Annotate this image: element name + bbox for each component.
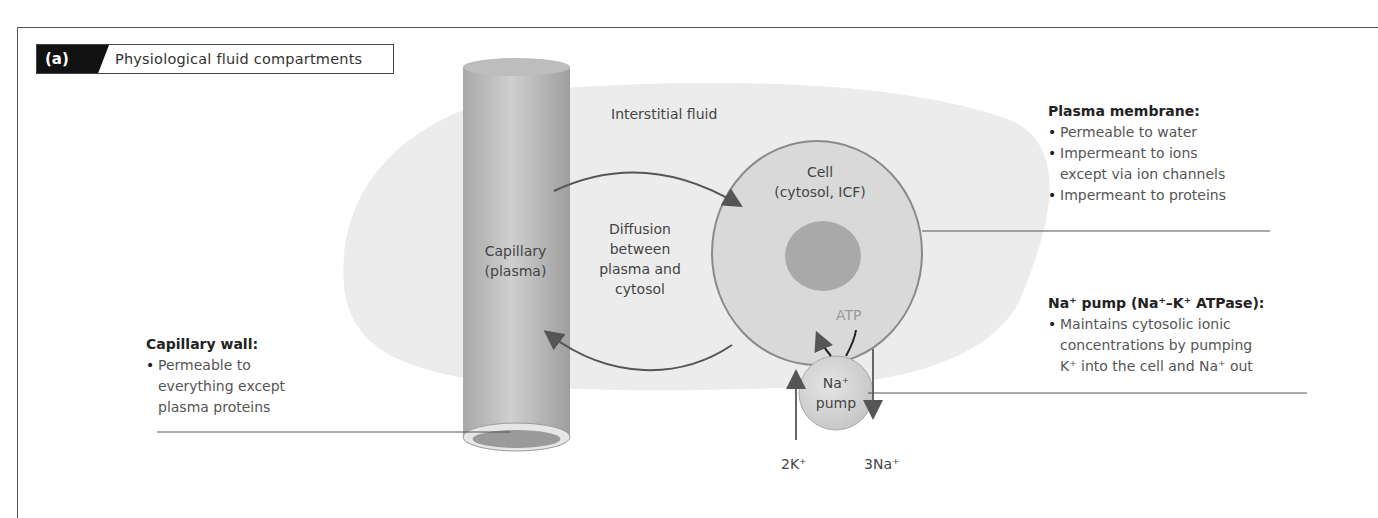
cell-label: Cell (cytosol, ICF) [755,162,885,202]
na-pump-heading: Na⁺ pump (Na⁺–K⁺ ATPase): [1048,293,1264,314]
na-pump-note: Na⁺ pump (Na⁺–K⁺ ATPase): Maintains cyto… [1048,293,1264,377]
plasma-membrane-note: Plasma membrane: Permeable to water Impe… [1048,101,1226,206]
k-ion-label: 2K⁺ [781,454,806,474]
capillary-wall-heading: Capillary wall: [146,334,285,355]
plasma-membrane-heading: Plasma membrane: [1048,101,1226,122]
pump-label: Na⁺ pump [800,373,872,413]
interstitial-fluid-region [343,83,1049,390]
capillary-wall-note: Capillary wall: Permeable to everything … [146,334,285,418]
na-ion-label: 3Na⁺ [864,454,899,474]
interstitial-fluid-label: Interstitial fluid [611,104,717,124]
diffusion-label: Diffusion between plasma and cytosol [585,219,695,299]
atp-label: ATP [836,305,861,325]
capillary-label: Capillary (plasma) [458,241,573,281]
